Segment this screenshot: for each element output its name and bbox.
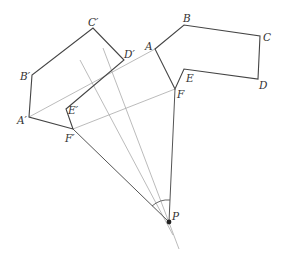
label-p: P [171,210,180,222]
ray-p-to-f [169,89,175,222]
label-b: B [182,12,191,24]
segment-ff-prime [73,89,175,129]
label-f: F [176,88,185,100]
label-c-prime: C′ [88,16,99,28]
polygon-original [155,25,260,89]
ray-p-to-f-prime [73,129,169,222]
rotation-diagram: A B C D E F A′ B′ C′ D′ E′ F′ P [0,0,284,264]
label-e: E [185,72,194,84]
label-a: A [144,40,153,52]
label-f-prime: F′ [64,132,75,144]
label-a-prime: A′ [16,114,28,126]
perpendicular-bisector-aa-prime [80,60,173,235]
label-d-prime: D′ [123,48,135,60]
center-point-p [167,220,172,225]
label-d: D [258,79,268,91]
perpendicular-bisector-ff-prime [103,48,179,249]
label-c: C [263,31,271,43]
label-b-prime: B′ [19,70,31,82]
label-e-prime: E′ [67,104,79,116]
